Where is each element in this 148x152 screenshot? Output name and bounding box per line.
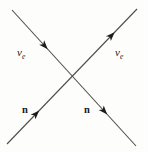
- neutrino-out-label: νe: [115, 46, 124, 61]
- neutron-in-label: n: [22, 104, 28, 115]
- trajectory-descending-line: [12, 10, 136, 146]
- neutron-out-label: n: [84, 104, 90, 115]
- scattering-diagram-svg: νeνenn: [0, 0, 148, 152]
- trajectory-ascending-line: [7, 9, 137, 144]
- neutrino-in-label: νe: [17, 46, 26, 61]
- scattering-diagram: νeνenn: [0, 0, 148, 152]
